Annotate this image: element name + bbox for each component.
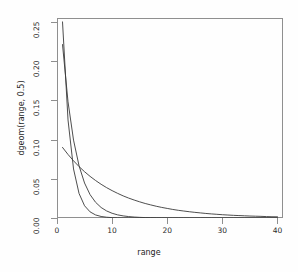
y-tick-label: 0.05 <box>33 178 42 195</box>
x-tick-mark <box>222 218 223 224</box>
data-curve-0 <box>63 22 278 218</box>
y-tick-mark <box>51 100 57 101</box>
x-tick-mark <box>112 218 113 224</box>
x-axis-title: range <box>0 248 298 257</box>
curve-layer <box>57 18 283 218</box>
x-tick-label: 40 <box>265 226 289 235</box>
x-tick-mark <box>167 218 168 224</box>
data-curve-1 <box>63 45 278 218</box>
y-tick-label: 0.00 <box>33 218 42 235</box>
x-tick-label: 30 <box>210 226 234 235</box>
x-tick-label: 10 <box>100 226 124 235</box>
y-tick-mark <box>51 140 57 141</box>
x-tick-label: 0 <box>45 226 69 235</box>
y-tick-label: 0.10 <box>33 139 42 156</box>
y-axis-title-text: dgeom(range, 0.5) <box>17 80 26 155</box>
y-tick-mark <box>51 61 57 62</box>
data-curve-2 <box>63 147 278 216</box>
x-tick-mark <box>277 218 278 224</box>
x-tick-label: 20 <box>155 226 179 235</box>
y-axis-title: dgeom(range, 0.5) <box>14 0 28 236</box>
chart-figure: 0.000.050.100.150.200.25 010203040 dgeom… <box>0 0 298 272</box>
x-tick-mark <box>57 218 58 224</box>
y-tick-mark <box>51 179 57 180</box>
y-tick-label: 0.20 <box>33 61 42 78</box>
y-tick-label: 0.25 <box>33 21 42 38</box>
y-tick-mark <box>51 22 57 23</box>
y-tick-label: 0.15 <box>33 100 42 117</box>
